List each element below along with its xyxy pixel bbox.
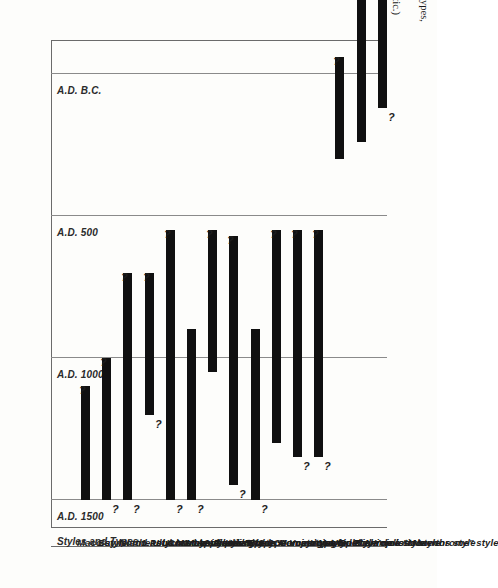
axis-tick-label: A.D. 500 <box>57 227 98 238</box>
range-bar-5 <box>166 230 175 500</box>
uncertainty-marker: ? <box>79 384 86 396</box>
uncertainty-marker: ? <box>261 503 268 515</box>
uncertainty-marker: ? <box>239 488 246 500</box>
uncertainty-marker: ? <box>324 460 331 472</box>
uncertainty-marker: ? <box>112 503 119 515</box>
uncertainty-marker: ? <box>143 271 150 283</box>
uncertainty-marker: ? <box>227 234 234 246</box>
uncertainty-marker: ? <box>176 503 183 515</box>
uncertainty-marker: ? <box>312 228 319 240</box>
range-bar-11 <box>293 230 302 457</box>
range-bar-7 <box>208 230 217 372</box>
range-bar-1 <box>81 386 90 499</box>
range-bar-12 <box>314 230 323 457</box>
range-bar-15 <box>378 0 387 108</box>
range-bar-3 <box>123 273 132 500</box>
range-bar-9 <box>251 329 260 499</box>
range-bar-4 <box>145 273 154 415</box>
uncertainty-marker: ? <box>197 503 204 515</box>
uncertainty-marker: ? <box>333 55 340 67</box>
range-bar-8 <box>229 236 238 486</box>
uncertainty-marker: ? <box>303 460 310 472</box>
uncertainty-marker: ? <box>133 503 140 515</box>
caption-line-1: —Temporal relationship of ceramic styles… <box>405 0 430 22</box>
row-label-15: Yojoa "Monochrome" style <box>374 537 498 548</box>
axis-tick-label: A.D. B.C. <box>57 85 102 96</box>
uncertainty-marker: ? <box>206 228 213 240</box>
range-bar-13 <box>335 57 344 159</box>
uncertainty-marker: ? <box>291 228 298 240</box>
figure-caption: Figure 15.—Temporal relationship of cera… <box>389 0 431 22</box>
range-bar-2 <box>102 358 111 500</box>
range-bar-6 <box>187 329 196 499</box>
gridline-3 <box>51 215 387 216</box>
uncertainty-marker: ? <box>100 356 107 368</box>
axis-tick-label: A.D. 1000 <box>57 369 104 380</box>
range-bar-10 <box>272 230 281 443</box>
chronology-chart: A.D. 1500A.D. 1000A.D. 500A.D. B.C. Maco… <box>43 14 395 574</box>
caption-line-2: and Ulua-Yojoa regions, Honduras. (Tenta… <box>389 0 403 22</box>
uncertainty-marker: ? <box>388 111 395 123</box>
uncertainty-marker: ? <box>155 418 162 430</box>
range-bar-14 <box>357 0 366 142</box>
uncertainty-marker: ? <box>164 228 171 240</box>
column-header: Styles and Types <box>57 536 138 547</box>
uncertainty-marker: ? <box>121 271 128 283</box>
axis-tick-label: A.D. 1500 <box>57 511 104 522</box>
uncertainty-marker: ? <box>270 228 277 240</box>
